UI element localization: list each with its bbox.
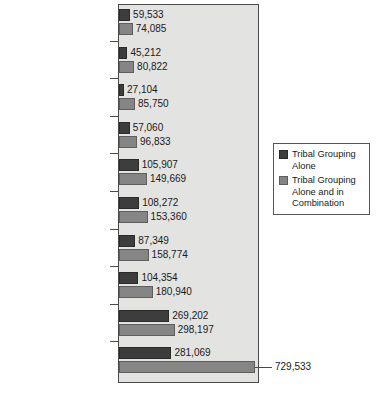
axis-tick [110,153,118,154]
bar-combination [119,23,133,35]
bar-value-label-combination: 729,533 [275,361,311,373]
bar-alone [119,122,130,134]
bar-value-label-alone: 281,069 [174,347,210,359]
bar-value-label-combination: 96,833 [140,136,171,148]
bar-alone [119,235,135,247]
bar-value-label-alone: 45,212 [130,47,161,59]
medium-gray-swatch-icon [279,176,288,185]
bar-alone [119,159,139,171]
bar-value-label-combination: 85,750 [138,98,169,110]
axis-tick [110,266,118,267]
bar-combination [119,286,153,298]
bar-value-label-alone: 87,349 [138,235,169,247]
bar-value-label-alone: 104,354 [141,272,177,284]
bar-value-label-alone: 108,272 [142,197,178,209]
legend-label-combination: Tribal Grouping Alone and in Combination [292,175,365,210]
bar-value-label-alone: 57,060 [133,122,164,134]
axis-tick [110,304,118,305]
axis-tick [110,116,118,117]
bar-value-label-combination: 158,774 [152,249,188,261]
bar-combination [119,324,175,336]
dark-gray-swatch-icon [279,150,288,159]
bar-value-label-combination: 180,940 [156,286,192,298]
bar-combination [119,361,255,373]
legend-label-alone: Tribal Grouping Alone [292,149,365,172]
bar-alone [119,84,124,96]
bar-value-label-combination: 74,085 [136,23,167,35]
axis-tick [110,191,118,192]
bar-value-label-alone: 105,907 [142,159,178,171]
legend-item-alone: Tribal Grouping Alone [279,149,365,172]
bar-alone [119,197,139,209]
bar-chart: Pueblo59,53374,085Iroguois45,21280,822Bl… [0,0,381,393]
axis-tick [110,229,118,230]
bar-alone [119,9,130,21]
bar-alone [119,272,138,284]
callout-leader-line [255,367,272,368]
bar-value-label-combination: 149,669 [150,173,186,185]
bar-value-label-alone: 59,533 [133,9,164,21]
bar-value-label-combination: 298,197 [178,324,214,336]
axis-tick [110,41,118,42]
bar-alone [119,347,171,359]
bar-combination [119,211,148,223]
bar-combination [119,136,137,148]
bar-value-label-combination: 80,822 [137,61,168,73]
bar-alone [119,310,169,322]
bar-combination [119,61,134,73]
axis-tick [110,78,118,79]
bar-combination [119,249,149,261]
bar-combination [119,173,147,185]
chart-legend: Tribal Grouping Alone Tribal Grouping Al… [273,143,370,215]
legend-item-combination: Tribal Grouping Alone and in Combination [279,175,365,210]
bar-combination [119,98,135,110]
bar-value-label-combination: 153,360 [151,211,187,223]
bar-value-label-alone: 269,202 [172,310,208,322]
bar-value-label-alone: 27,104 [127,84,158,96]
bar-alone [119,47,127,59]
axis-tick [110,341,118,342]
